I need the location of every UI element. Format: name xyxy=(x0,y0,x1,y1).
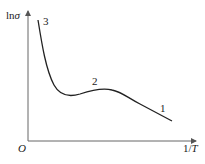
conductivity-diagram: lnσ O 1/T 3 2 1 xyxy=(0,0,205,164)
origin-label: O xyxy=(18,142,26,154)
y-axis-label: lnσ xyxy=(6,9,21,21)
region-1-label: 1 xyxy=(160,102,166,114)
conductivity-curve xyxy=(38,20,172,121)
x-axis-label: 1/T xyxy=(183,142,199,154)
region-3-label: 3 xyxy=(43,15,49,27)
region-2-label: 2 xyxy=(92,75,98,87)
